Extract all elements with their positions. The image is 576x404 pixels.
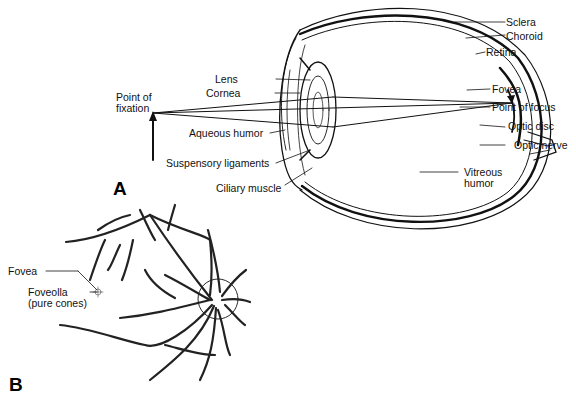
label-aqueous-humor: Aqueous humor [189, 127, 263, 139]
panel-letter-b: B [9, 374, 23, 396]
label-cornea: Cornea [206, 87, 240, 99]
label-optic-disc: Optic disc [508, 120, 554, 132]
label-vitreous-humor-2: humor [464, 177, 494, 189]
panel-letter-a: A [113, 178, 127, 200]
label-choroid: Choroid [506, 30, 543, 42]
label-point-of-fixation-2: fixation [116, 102, 149, 114]
label-point-of-focus: Point of focus [492, 101, 556, 113]
eye-diagram-drawing [0, 0, 576, 404]
label-retina: Retina [486, 46, 516, 58]
label-sclera: Sclera [506, 16, 536, 28]
label-lens: Lens [215, 73, 238, 85]
label-fovea-a: Fovea [492, 83, 521, 95]
label-suspensory-ligaments: Suspensory ligaments [166, 157, 269, 169]
label-foveolla-2: (pure cones) [28, 297, 87, 309]
label-ciliary-muscle: Ciliary muscle [216, 182, 281, 194]
label-fovea-b: Fovea [8, 265, 37, 277]
eye-anatomy-figure: Sclera Choroid Retina Fovea Point of foc… [0, 0, 576, 404]
label-optic-nerve: Optic nerve [514, 139, 568, 151]
